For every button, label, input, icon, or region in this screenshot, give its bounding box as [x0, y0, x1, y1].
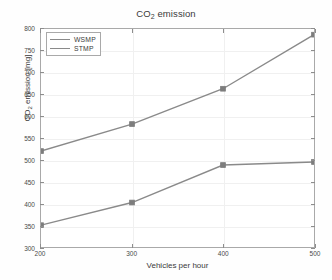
y-tick-mark: [40, 182, 44, 183]
y-tick-mark: [40, 50, 44, 51]
y-tick-mark-right: [311, 72, 315, 73]
x-tick-mark: [132, 244, 133, 248]
x-tick-mark-top: [40, 29, 41, 33]
x-tick-mark-top: [223, 29, 224, 33]
y-tick-mark: [40, 248, 44, 249]
legend-line-swatch: [50, 48, 70, 49]
y-tick-mark: [40, 160, 44, 161]
chart-legend: WSMPSTMP: [46, 32, 101, 56]
y-tick-mark: [40, 204, 44, 205]
y-tick-label: 350: [24, 223, 35, 230]
x-tick-label: 200: [35, 250, 46, 257]
y-tick-mark: [40, 138, 44, 139]
data-point-marker-wsmp: [312, 32, 314, 37]
data-point-marker-wsmp: [130, 122, 135, 127]
x-tick-label: 400: [218, 250, 229, 257]
x-tick-mark: [40, 244, 41, 248]
y-tick-mark-right: [311, 94, 315, 95]
y-tick-mark-right: [311, 248, 315, 249]
y-tick-mark: [40, 226, 44, 227]
y-axis-label: CO2 emission [mg]: [23, 8, 33, 168]
legend-item-stmp: STMP: [50, 44, 96, 53]
chart-title-tail: emission: [155, 8, 196, 19]
y-tick-mark: [40, 116, 44, 117]
data-point-marker-stmp: [221, 163, 226, 168]
x-axis-label: Vehicles per hour: [40, 261, 315, 270]
data-point-marker-stmp: [130, 200, 135, 205]
series-plot: [41, 29, 314, 247]
x-tick-mark-top: [132, 29, 133, 33]
y-tick-mark-right: [311, 116, 315, 117]
legend-line-swatch: [50, 39, 70, 40]
plot-area: [40, 28, 315, 248]
data-point-marker-wsmp: [41, 149, 43, 154]
y-axis-label-tail: emission [mg]: [23, 55, 32, 107]
series-line-stmp: [41, 162, 314, 225]
y-tick-mark: [40, 94, 44, 95]
chart-title: CO2 emission: [0, 8, 332, 20]
y-tick-label: 450: [24, 179, 35, 186]
y-tick-mark-right: [311, 204, 315, 205]
x-tick-label: 300: [126, 250, 137, 257]
y-tick-label: 400: [24, 201, 35, 208]
y-axis-label-subscript: 2: [27, 106, 33, 109]
y-tick-mark-right: [311, 138, 315, 139]
x-tick-label: 500: [310, 250, 321, 257]
legend-label: STMP: [74, 45, 94, 52]
y-tick-mark: [40, 72, 44, 73]
x-tick-mark-top: [315, 29, 316, 33]
chart-title-main: CO: [136, 8, 150, 19]
x-tick-mark: [315, 244, 316, 248]
y-tick-mark-right: [311, 160, 315, 161]
y-tick-label: 300: [24, 245, 35, 252]
legend-item-wsmp: WSMP: [50, 35, 96, 44]
data-point-marker-wsmp: [221, 86, 226, 91]
y-axis-label-main: CO: [23, 109, 32, 121]
y-tick-mark-right: [311, 182, 315, 183]
figure-canvas: CO2 emission 300350400450500550600650700…: [0, 0, 332, 280]
legend-label: WSMP: [74, 36, 96, 43]
y-tick-mark-right: [311, 226, 315, 227]
x-tick-mark: [223, 244, 224, 248]
y-tick-mark-right: [311, 50, 315, 51]
